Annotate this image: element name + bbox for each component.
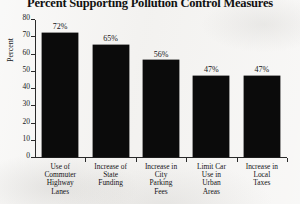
bar: 56% — [143, 60, 179, 157]
plot-area: 01020304050607080 72%65%56%47%47% — [35, 20, 287, 158]
y-tick-label: 20 — [23, 117, 31, 126]
x-tick-mark — [85, 158, 86, 162]
category-label-line: Areas — [186, 188, 236, 196]
y-tick-30: 30 — [35, 105, 36, 106]
y-tick-60: 60 — [35, 54, 36, 55]
y-tick-0: 0 — [35, 157, 36, 158]
y-tick-40: 40 — [35, 88, 36, 89]
bar-value-label: 65% — [103, 34, 118, 43]
y-tick-label: 0 — [26, 151, 30, 160]
y-tick-label: 40 — [23, 82, 31, 91]
y-tick-mark — [31, 123, 35, 124]
y-tick-mark — [31, 54, 35, 55]
category-label-line: Lanes — [35, 188, 85, 196]
y-tick-label: 30 — [23, 99, 31, 108]
category-label: Use ofCommuterHighwayLanes — [35, 163, 85, 196]
bar: 72% — [42, 33, 78, 157]
y-tick-mark — [31, 88, 35, 89]
x-tick-mark — [186, 158, 187, 162]
y-tick-mark — [31, 105, 35, 106]
y-tick-mark — [31, 19, 35, 20]
y-tick-mark — [31, 140, 35, 141]
category-label: Increase ofStateFunding — [85, 163, 135, 188]
y-tick-80: 80 — [35, 19, 36, 20]
bar-value-label: 47% — [204, 65, 219, 74]
category-label-line: Funding — [85, 179, 135, 187]
y-tick-mark — [31, 36, 35, 37]
x-tick-mark — [237, 158, 238, 162]
x-tick-mark — [287, 158, 288, 162]
y-tick-10: 10 — [35, 140, 36, 141]
bar-value-label: 72% — [53, 22, 68, 31]
category-label: Increase inLocalTaxes — [237, 163, 287, 188]
y-tick-50: 50 — [35, 71, 36, 72]
x-tick-mark — [136, 158, 137, 162]
category-label: Limit CarUse inUrbanAreas — [186, 163, 236, 196]
y-tick-label: 70 — [23, 30, 31, 39]
bar: 65% — [93, 45, 129, 157]
bar-value-label: 56% — [154, 50, 169, 59]
category-label: Increase inCityParkingFees — [136, 163, 186, 196]
chart-title: Percent Supporting Pollution Control Mea… — [0, 0, 300, 11]
y-tick-label: 50 — [23, 65, 31, 74]
category-label-line: Taxes — [237, 179, 287, 187]
chart-page: Percent Supporting Pollution Control Mea… — [0, 0, 300, 204]
y-tick-label: 80 — [23, 13, 31, 22]
y-tick-70: 70 — [35, 36, 36, 37]
bar-value-label: 47% — [254, 65, 269, 74]
y-tick-20: 20 — [35, 123, 36, 124]
bar: 47% — [244, 76, 280, 157]
category-label-line: Fees — [136, 188, 186, 196]
y-tick-label: 60 — [23, 48, 31, 57]
y-tick-mark — [31, 71, 35, 72]
y-tick-mark — [31, 157, 35, 158]
bar: 47% — [193, 76, 229, 157]
x-axis-line — [35, 157, 287, 158]
y-axis-title: Percent — [6, 38, 15, 62]
y-axis-line — [35, 20, 36, 158]
y-tick-label: 10 — [23, 134, 31, 143]
